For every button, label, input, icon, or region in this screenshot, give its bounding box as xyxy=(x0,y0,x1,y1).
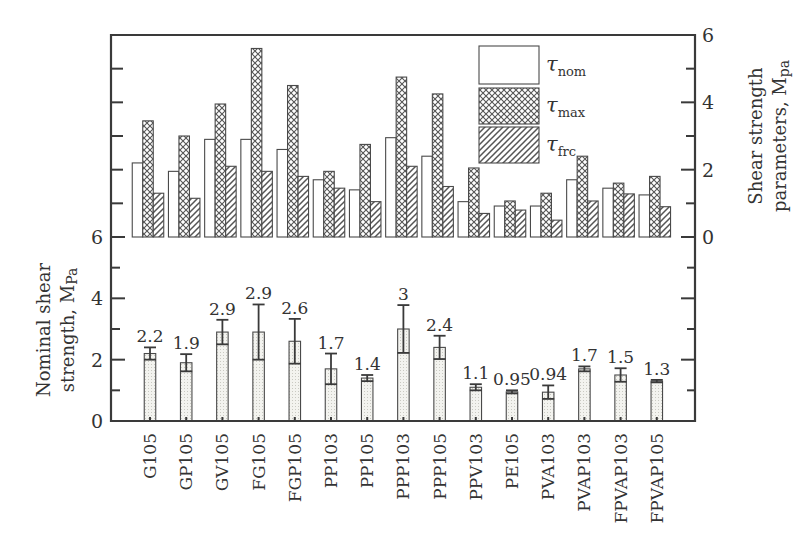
bar-nominal-PPV103 xyxy=(470,387,482,421)
bar-frc-PVAP103 xyxy=(588,201,599,237)
data-label: 2.4 xyxy=(426,315,453,335)
shear-strength-chart: 0246 2.21.92.92.92.61.71.432.41.10.950.9… xyxy=(0,0,804,552)
data-label: 1.7 xyxy=(571,345,598,365)
top-right-tick-label: 4 xyxy=(702,91,714,113)
bar-max-G105 xyxy=(143,121,154,237)
data-label: 1.4 xyxy=(354,354,381,374)
bar-nom-FGP105 xyxy=(277,149,288,237)
data-label: 2.9 xyxy=(245,283,272,303)
bar-max-PE105 xyxy=(505,201,516,237)
bar-nom-FG105 xyxy=(241,139,252,237)
legend-label-max: τmax xyxy=(546,93,586,120)
bar-nom-PP105 xyxy=(349,190,360,237)
bar-nom-G105 xyxy=(132,163,143,237)
category-label-FPVAP105: FPVAP105 xyxy=(647,433,667,524)
bar-nom-PE105 xyxy=(494,206,505,237)
data-label: 1.7 xyxy=(317,333,344,353)
legend-swatch-frc xyxy=(479,127,539,163)
bar-frc-G105 xyxy=(153,193,164,237)
data-label: 1.1 xyxy=(462,363,489,383)
category-label-GV105: GV105 xyxy=(212,433,232,491)
bar-max-FPVAP105 xyxy=(650,176,661,237)
data-label: 2.9 xyxy=(209,299,236,319)
data-label: 0.94 xyxy=(529,364,567,384)
bar-frc-GV105 xyxy=(226,166,237,237)
bar-max-GV105 xyxy=(215,104,226,237)
bar-nom-PP103 xyxy=(313,180,324,237)
bar-nominal-PE105 xyxy=(506,392,518,421)
data-label: 3 xyxy=(398,284,409,304)
bar-frc-PP105 xyxy=(370,202,381,237)
bottom-ylabel: Nominal shearstrength, MPa xyxy=(33,263,80,397)
legend-label-frc: τfrc xyxy=(546,132,576,159)
category-label-PPP103: PPP103 xyxy=(393,433,413,500)
bottom-ylabel-line2: strength, MPa xyxy=(57,268,80,393)
bar-nominal-FPVAP105 xyxy=(651,381,663,421)
bottom-left-tick-label: 4 xyxy=(91,287,103,309)
category-label-FPVAP103: FPVAP103 xyxy=(611,433,631,524)
category-label-GP105: GP105 xyxy=(176,433,196,490)
bar-frc-FPVAP105 xyxy=(660,207,671,237)
bottom-panel-nominal-strength: 2.21.92.92.92.61.71.432.41.10.950.941.71… xyxy=(91,226,695,432)
data-label: 0.95 xyxy=(493,369,531,389)
bar-max-PP105 xyxy=(360,144,371,237)
bar-nom-FPVAP105 xyxy=(639,195,650,237)
category-label-G105: G105 xyxy=(140,433,160,479)
top-ylabel: Shear strengthparameters, Mpa xyxy=(745,60,792,212)
category-label-PVAP103: PVAP103 xyxy=(574,433,594,512)
bar-frc-PE105 xyxy=(515,210,526,237)
data-label: 1.9 xyxy=(173,333,200,353)
bar-max-PPV103 xyxy=(469,168,480,237)
bar-frc-FPVAP103 xyxy=(624,194,635,237)
bar-nom-PPP105 xyxy=(422,156,433,237)
category-label-PE105: PE105 xyxy=(502,433,522,489)
bar-nominal-GV105 xyxy=(217,332,229,421)
legend: τnomτmaxτfrc xyxy=(479,46,586,163)
bar-frc-PPP103 xyxy=(407,166,418,237)
bar-nominal-PP105 xyxy=(361,378,373,421)
legend-swatch-max xyxy=(479,88,539,124)
bar-frc-PP103 xyxy=(334,188,345,237)
category-label-FGP105: FGP105 xyxy=(285,433,305,502)
bar-max-PPP103 xyxy=(396,77,407,237)
data-label: 1.5 xyxy=(607,347,634,367)
bar-nom-PPP103 xyxy=(386,138,397,237)
legend-label-nom: τnom xyxy=(546,52,586,79)
bar-nom-GP105 xyxy=(168,171,179,237)
bar-max-PVA103 xyxy=(541,193,552,237)
data-label: 1.3 xyxy=(643,359,670,379)
bar-max-FPVAP103 xyxy=(613,183,624,237)
bar-frc-PPV103 xyxy=(479,213,490,237)
category-label-PP103: PP103 xyxy=(321,433,341,488)
top-right-tick-label: 0 xyxy=(702,226,714,248)
bar-max-PP103 xyxy=(324,171,335,237)
bar-nominal-G105 xyxy=(144,354,156,421)
bar-nominal-PVAP103 xyxy=(579,369,591,421)
top-right-tick-label: 2 xyxy=(702,159,714,181)
bar-max-GP105 xyxy=(179,136,190,237)
bottom-ylabel-line1: Nominal shear xyxy=(33,263,54,397)
bottom-left-tick-label: 0 xyxy=(91,410,103,432)
bar-frc-PVA103 xyxy=(551,220,562,237)
top-ylabel-line1: Shear strength xyxy=(745,67,766,205)
top-panel-shear-parameters: 0246 xyxy=(111,24,714,248)
bottom-left-tick-label: 2 xyxy=(91,349,103,371)
bar-max-PVAP103 xyxy=(577,156,588,237)
bar-nom-PVA103 xyxy=(530,206,541,237)
bar-nom-GV105 xyxy=(205,139,216,237)
category-label-PP105: PP105 xyxy=(357,433,377,488)
category-labels: G105GP105GV105FG105FGP105PP103PP105PPP10… xyxy=(140,433,667,524)
category-label-FG105: FG105 xyxy=(249,433,269,491)
category-label-PVA103: PVA103 xyxy=(538,433,558,500)
legend-swatch-nom xyxy=(479,46,539,84)
data-label: 2.2 xyxy=(136,326,163,346)
top-ylabel-line2: parameters, Mpa xyxy=(769,60,792,212)
bar-frc-FGP105 xyxy=(298,176,309,237)
bar-nom-PPV103 xyxy=(458,202,469,237)
chart-figure: 0246 2.21.92.92.92.61.71.432.41.10.950.9… xyxy=(0,0,804,552)
bar-max-PPP105 xyxy=(432,94,443,237)
bar-frc-FG105 xyxy=(262,171,273,237)
top-right-tick-label: 6 xyxy=(702,24,714,46)
category-label-PPV103: PPV103 xyxy=(466,433,486,501)
bar-frc-PPP105 xyxy=(443,187,454,238)
